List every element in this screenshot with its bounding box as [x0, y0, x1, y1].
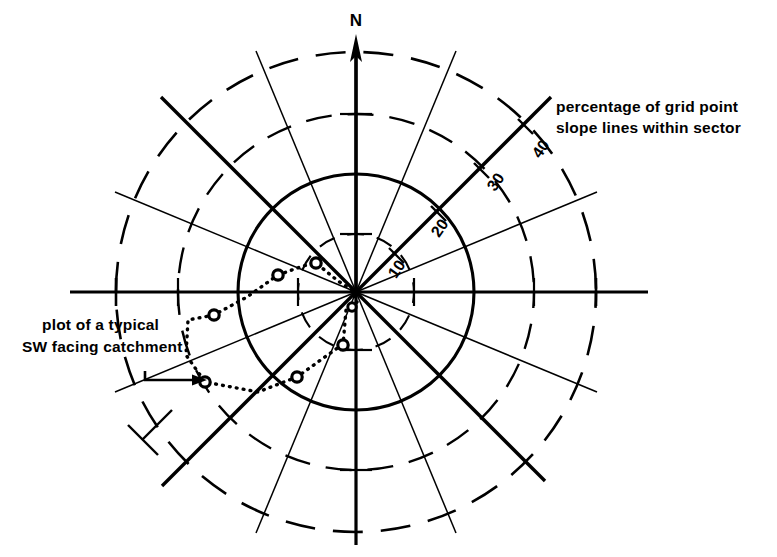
data-point — [338, 340, 348, 350]
spoke-SSE — [356, 292, 456, 533]
data-point — [311, 258, 321, 268]
series-typical-sw-catchment — [186, 258, 357, 392]
radius-axis-caption-line2: slope lines within sector — [556, 119, 741, 136]
series-callout-line1: plot of a typical — [42, 316, 159, 333]
spoke-NW — [161, 97, 356, 292]
data-point — [348, 303, 356, 311]
spoke-NE-radius-axis — [356, 97, 551, 292]
spoke-SSW — [256, 292, 356, 533]
spoke-SE — [356, 292, 545, 481]
spoke-NNW — [256, 51, 356, 292]
spoke-ESE — [356, 292, 597, 392]
polar-rose-chart: N 10 20 30 40 percentage of grid point s… — [0, 0, 777, 557]
data-point — [273, 270, 283, 280]
data-point — [292, 372, 302, 382]
series-callout-line2: SW facing catchment — [22, 338, 183, 355]
spoke-WNW — [115, 192, 356, 292]
rose-diagram-figure: N 10 20 30 40 percentage of grid point s… — [0, 0, 777, 557]
spoke-NNE — [356, 51, 456, 292]
north-arrow — [350, 34, 362, 292]
data-point — [209, 310, 219, 320]
r-tick-label-30: 30 — [483, 170, 507, 194]
radius-axis-caption-line1: percentage of grid point — [556, 98, 738, 115]
r-tick-label-40: 40 — [528, 137, 552, 161]
spoke-SW — [162, 292, 356, 486]
compass-north-label: N — [350, 11, 362, 30]
